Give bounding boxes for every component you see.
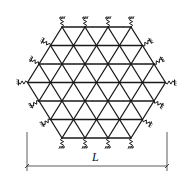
lattice-edge-diagonal (143, 101, 155, 120)
lattice-edge-diagonal (62, 27, 74, 46)
lattice-edge-diagonal (51, 64, 63, 83)
lattice-edge-diagonal (39, 64, 51, 83)
lattice-edge-diagonal (51, 101, 63, 120)
lattice-edge-diagonal (28, 83, 40, 102)
lattice-edge-diagonal (39, 46, 51, 65)
lattice-edge-diagonal (108, 46, 120, 65)
lattice-edge-diagonal (97, 46, 109, 65)
lattice-edge-diagonal (85, 101, 97, 120)
lattice-edge-diagonal (51, 83, 63, 102)
lattice-edge-diagonal (143, 64, 155, 83)
lattice-edge-diagonal (74, 64, 86, 83)
lattice-edge-diagonal (74, 101, 86, 120)
spring-support-icon (166, 80, 177, 86)
spring-support-icon (59, 138, 65, 149)
lattice-edge-diagonal (131, 27, 143, 46)
lattice-edge-diagonal (28, 64, 40, 83)
lattice-edge-diagonal (39, 101, 51, 120)
lattice-edge-diagonal (120, 83, 132, 102)
spring-support-icon (105, 16, 111, 27)
lattice-edge-diagonal (108, 101, 120, 120)
spring-support-icon (29, 56, 39, 64)
lattice-edge-diagonal (74, 46, 86, 65)
lattice-edge-diagonal (85, 46, 97, 65)
lattice-edge-diagonal (131, 64, 143, 83)
lattice-edge-diagonal (108, 120, 120, 139)
spring-support-icon (128, 138, 134, 149)
lattice-edge-diagonal (74, 27, 86, 46)
lattice-edge-diagonal (120, 46, 132, 65)
dimension-label: L (91, 150, 99, 164)
lattice-edge-diagonal (62, 101, 74, 120)
lattice-edge-diagonal (120, 27, 132, 46)
lattice-edge-diagonal (85, 64, 97, 83)
spring-support-icon (82, 16, 88, 27)
lattice-edge-diagonal (51, 46, 63, 65)
lattice-edge-diagonal (51, 120, 63, 139)
spring-support-icon (41, 37, 51, 45)
lattice-edge-diagonal (39, 83, 51, 102)
spring-support-icon (154, 57, 165, 65)
lattice-edge-diagonal (131, 120, 143, 139)
lattice-edge-diagonal (62, 46, 74, 65)
spring-support-icon (17, 79, 28, 85)
lattice-diagram: L (0, 0, 189, 184)
spring-support-icon (143, 120, 153, 128)
lattice-edge-diagonal (120, 64, 132, 83)
lattice-edge-diagonal (131, 83, 143, 102)
lattice-edge-diagonal (108, 64, 120, 83)
lattice-edge-diagonal (120, 120, 132, 139)
spring-support-icon (82, 138, 88, 149)
lattice-edge-diagonal (74, 120, 86, 139)
lattice-edge-diagonal (97, 83, 109, 102)
lattice-edge-diagonal (108, 27, 120, 46)
lattice-edge-diagonal (131, 46, 143, 65)
spring-support-icon (154, 101, 164, 109)
lattice-edge-diagonal (74, 83, 86, 102)
lattice-edge-diagonal (51, 27, 63, 46)
lattice-edge-diagonal (97, 101, 109, 120)
lattice-edge-diagonal (85, 27, 97, 46)
lattice-edge-diagonal (143, 46, 155, 65)
lattice-edge-diagonal (131, 101, 143, 120)
spring-support-icon (143, 38, 154, 46)
lattice-edge-diagonal (120, 101, 132, 120)
lattice-edge-diagonal (62, 64, 74, 83)
spring-support-icon (105, 138, 111, 149)
spring-support-icon (128, 16, 134, 27)
lattice-edge-diagonal (62, 120, 74, 139)
lattice-edge-diagonal (97, 120, 109, 139)
lattice-edge-diagonal (85, 83, 97, 102)
spring-support-icon (28, 101, 39, 109)
lattice-edge-diagonal (154, 83, 166, 102)
spring-support-icon (39, 119, 50, 127)
lattice-edge-diagonal (108, 83, 120, 102)
lattice-edge-diagonal (154, 64, 166, 83)
spring-support-icon (59, 16, 65, 27)
lattice-edge-diagonal (85, 120, 97, 139)
lattice-edge-diagonal (97, 64, 109, 83)
lattice-edge-diagonal (97, 27, 109, 46)
lattice-edge-diagonal (143, 83, 155, 102)
lattice-edge-diagonal (62, 83, 74, 102)
